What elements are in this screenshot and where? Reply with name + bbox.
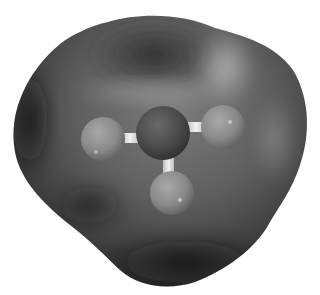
highlight [178, 198, 182, 202]
atom-bottom [150, 171, 194, 215]
atom-central [136, 106, 190, 160]
atom-right [201, 105, 245, 149]
highlight [94, 150, 98, 154]
molecule-render [0, 0, 320, 295]
atom-left [81, 117, 125, 161]
highlight [228, 120, 232, 124]
